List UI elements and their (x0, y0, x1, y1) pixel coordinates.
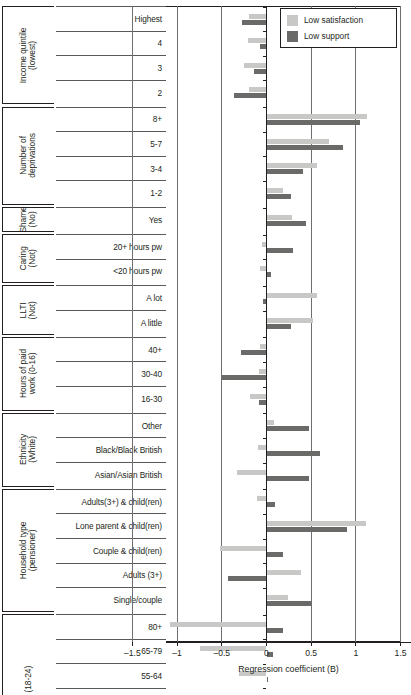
category-row: 30-40 (56, 361, 166, 386)
group-box-number-of: Number ofdeprivations (2, 107, 54, 205)
x-axis-tick (311, 642, 312, 646)
row-tick (263, 311, 267, 312)
row-tick (263, 639, 267, 640)
row-tick (263, 489, 267, 490)
x-axis-tick-label: –1.5 (112, 648, 152, 658)
bar-low-satisfaction (259, 369, 266, 374)
category-row: 20+ hours pw (56, 234, 166, 259)
row-tick (263, 208, 267, 209)
bar-low-satisfaction (267, 521, 366, 526)
bar-low-support (228, 576, 266, 581)
category-row: 80+ (56, 614, 166, 639)
bar-low-satisfaction (267, 188, 283, 193)
bar-low-support (267, 426, 310, 431)
category-row: 8+ (56, 107, 166, 132)
bar-low-support (263, 299, 267, 304)
bar-low-satisfaction (248, 38, 267, 43)
bar-low-support (267, 221, 306, 226)
bar-low-support (267, 628, 283, 633)
legend-label-low-support: Low support (304, 31, 349, 41)
category-label: Other (142, 421, 162, 431)
category-label: 8+ (153, 114, 162, 124)
category-row: Black/Black British (56, 437, 166, 462)
bar-low-satisfaction (250, 394, 266, 399)
x-axis-tick (266, 642, 267, 646)
category-label: A little (141, 318, 162, 328)
bar-low-satisfaction (267, 420, 274, 425)
bar-low-satisfaction (249, 14, 267, 19)
bar-low-support (254, 69, 267, 74)
row-tick (263, 107, 267, 108)
bar-low-support (267, 145, 344, 150)
category-row: Adults (3+) (56, 563, 166, 588)
bar-low-support (222, 375, 267, 380)
group-label: LLTI(Not) (19, 301, 38, 319)
row-tick (263, 56, 267, 57)
row-tick (263, 362, 267, 363)
bar-low-satisfaction (267, 114, 367, 119)
bar-low-support (267, 169, 304, 174)
category-label: 2 (157, 88, 162, 98)
row-tick (263, 286, 267, 287)
category-label: 40+ (148, 345, 162, 355)
row-tick (263, 31, 267, 32)
bar-low-support (267, 248, 294, 253)
bar-low-support (267, 120, 361, 125)
group-box-hours-of-paid: Hours of paidwork (0-16) (2, 337, 54, 411)
bar-low-satisfaction (262, 242, 266, 247)
category-label: A lot (146, 293, 162, 303)
group-box-ethnicity: Ethnicity(White) (2, 413, 54, 487)
bar-low-support (260, 44, 266, 49)
bar-low-satisfaction (267, 139, 330, 144)
category-row: 16-30 (56, 386, 166, 411)
category-row: Adults(3+) & child(ren) (56, 489, 166, 514)
category-label: Yes (149, 215, 162, 225)
bar-low-satisfaction (267, 293, 317, 298)
group-label: Income quintile(lowest) (19, 27, 38, 83)
category-label: Asian/Asian British (95, 470, 162, 480)
bar-low-support (267, 324, 291, 329)
bar-low-support (259, 400, 266, 405)
bar-low-satisfaction (267, 215, 292, 220)
group-label: Caring(Not) (19, 246, 38, 270)
row-tick (263, 615, 267, 616)
bar-low-satisfaction (244, 63, 266, 68)
bar-low-satisfaction (267, 595, 288, 600)
bar-low-support (234, 93, 266, 98)
row-tick (263, 387, 267, 388)
row-tick (263, 563, 267, 564)
row-tick (263, 259, 267, 260)
category-label: Black/Black British (96, 445, 162, 455)
group-box-income-quintile: Income quintile(lowest) (2, 6, 54, 104)
plot-area (166, 0, 411, 652)
group-label: Shame(No) (19, 206, 38, 232)
bar-low-support (267, 272, 271, 277)
category-row: A lot (56, 285, 166, 310)
category-label: 5-7 (150, 139, 162, 149)
legend-label-low-satisfaction: Low satisfaction (304, 15, 363, 25)
category-row: 45-54 (56, 688, 166, 695)
x-axis-title: Regression coefficient (B) (166, 664, 411, 674)
gridline-1p5 (400, 6, 401, 642)
x-axis-tick-label: 1.5 (381, 648, 411, 658)
category-row: Highest (56, 6, 166, 31)
category-label: 4 (157, 38, 162, 48)
category-label: <20 hours pw (113, 266, 162, 276)
group-box-household-type: Household type(pensioner) (2, 489, 54, 612)
group-box-age-18-24: Age (18-24) (2, 614, 54, 695)
chart-root: Income quintile(lowest)Number ofdeprivat… (0, 0, 411, 695)
group-label: Hours of paidwork (0-16) (19, 349, 38, 398)
bar-low-satisfaction (257, 496, 267, 501)
legend-item-low-satisfaction: Low satisfaction (287, 15, 390, 26)
category-label: Adults (3+) (123, 570, 162, 580)
row-tick (263, 80, 267, 81)
row-tick (263, 539, 267, 540)
bar-low-support (267, 194, 291, 199)
bar-low-support (267, 527, 347, 532)
x-axis: Regression coefficient (B) –1.5–1–0.500.… (166, 642, 411, 695)
bar-low-support (242, 20, 266, 25)
bar-low-satisfaction (260, 344, 266, 349)
bar-low-support (267, 601, 312, 606)
row-tick (263, 235, 267, 236)
category-row: 3-4 (56, 156, 166, 181)
